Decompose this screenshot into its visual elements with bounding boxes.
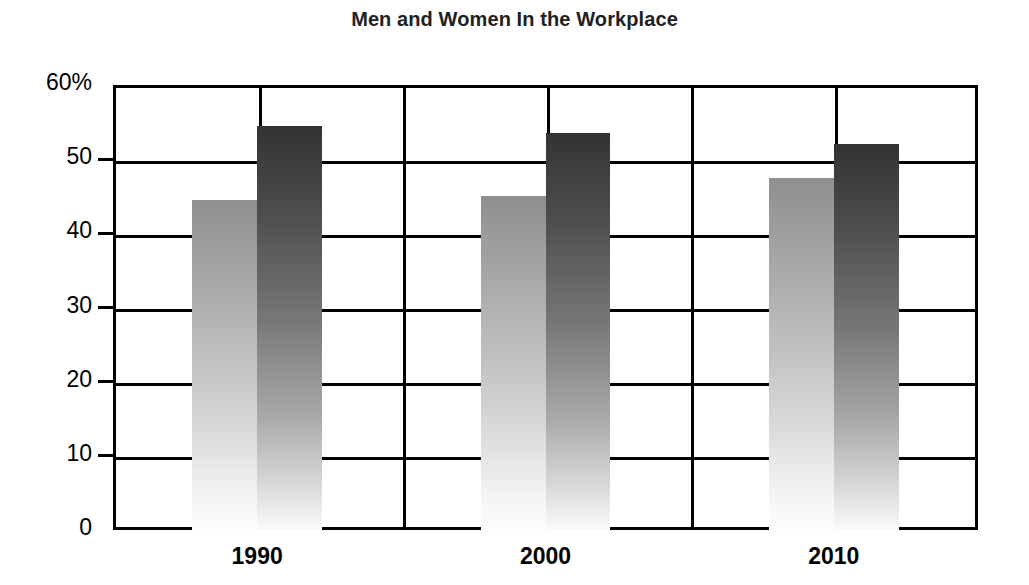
- gridline-vertical: [259, 88, 262, 527]
- y-axis-tick-mark: [98, 232, 114, 235]
- y-axis-tick-mark: [98, 454, 114, 457]
- y-axis-tick-label: 50: [0, 143, 92, 170]
- gridline-vertical: [835, 88, 838, 527]
- gridline-horizontal: [116, 235, 975, 238]
- y-axis-tick-label: 30: [0, 292, 92, 319]
- y-axis-tick-label: 20: [0, 366, 92, 393]
- gridline-horizontal: [116, 161, 975, 164]
- x-axis: 199020002010: [113, 543, 978, 583]
- y-axis-tick-label: 60%: [0, 69, 92, 96]
- gridline-horizontal: [116, 383, 975, 386]
- y-axis-tick-label: 40: [0, 217, 92, 244]
- chart-figure: Men and Women In the Workplace 010203040…: [0, 0, 1029, 585]
- gridline-vertical: [547, 88, 550, 527]
- gridline-horizontal: [116, 457, 975, 460]
- y-axis-tick-label: 0: [0, 514, 92, 541]
- y-axis-tick-label: 10: [0, 440, 92, 467]
- y-axis-tick-mark: [98, 380, 114, 383]
- gridline-horizontal: [116, 309, 975, 312]
- plot-area: [113, 85, 978, 530]
- y-axis: 0102030405060%: [0, 0, 100, 585]
- x-axis-tick-label-2010: 2010: [690, 543, 978, 570]
- y-axis-tick-mark: [98, 158, 114, 161]
- y-axis-tick-mark: [98, 306, 114, 309]
- gridline-vertical: [691, 88, 694, 527]
- x-axis-tick-label-2000: 2000: [401, 543, 689, 570]
- gridline-vertical: [403, 88, 406, 527]
- x-axis-tick-label-1990: 1990: [113, 543, 401, 570]
- chart-title: Men and Women In the Workplace: [0, 8, 1029, 31]
